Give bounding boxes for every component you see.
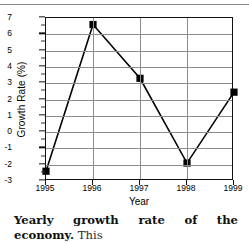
y-axis-minor-tick-mark bbox=[41, 74, 45, 75]
gridline-vertical bbox=[187, 18, 188, 179]
y-axis-tick-label: 6 bbox=[0, 29, 12, 38]
gridline-horizontal bbox=[46, 67, 232, 68]
x-axis-label: Year bbox=[45, 196, 233, 207]
gridline-horizontal bbox=[46, 132, 232, 133]
y-axis-tick-label: 3 bbox=[0, 78, 12, 87]
y-axis-tick-label: -2 bbox=[0, 159, 12, 168]
y-axis-tick-mark bbox=[39, 49, 45, 50]
data-point-marker bbox=[230, 89, 237, 96]
y-axis-tick-label: 7 bbox=[0, 13, 12, 22]
gridline-horizontal bbox=[46, 148, 232, 149]
y-axis-tick-label: 1 bbox=[0, 111, 12, 120]
y-axis-label: Growth Rate (%) bbox=[16, 30, 27, 170]
x-axis-tick-mark bbox=[92, 180, 93, 185]
y-axis-tick-mark bbox=[39, 65, 45, 66]
gridline-horizontal bbox=[46, 100, 232, 101]
gridline-horizontal bbox=[46, 34, 232, 35]
y-axis-tick-mark bbox=[39, 130, 45, 131]
y-axis-tick-label: -3 bbox=[0, 176, 12, 185]
y-axis-minor-tick-mark bbox=[41, 25, 45, 26]
line-chart: Growth Rate (%) -3-2-101234567 199519961… bbox=[0, 8, 249, 213]
x-axis-tick-mark bbox=[186, 180, 187, 185]
y-axis-tick-mark bbox=[39, 33, 45, 34]
y-axis-tick-label: -1 bbox=[0, 143, 12, 152]
y-axis-minor-tick-mark bbox=[41, 90, 45, 91]
y-axis-minor-tick-mark bbox=[41, 41, 45, 42]
gridline-vertical bbox=[140, 18, 141, 179]
x-axis-tick-mark bbox=[45, 180, 46, 185]
x-axis-tick-mark bbox=[233, 180, 234, 185]
gridline-horizontal bbox=[46, 51, 232, 52]
y-axis-minor-tick-mark bbox=[41, 155, 45, 156]
y-axis-minor-tick-mark bbox=[41, 171, 45, 172]
x-axis-tick-mark bbox=[139, 180, 140, 185]
y-axis-minor-tick-mark bbox=[41, 139, 45, 140]
figure-caption: Yearly growth rate of the economy. This bbox=[14, 213, 238, 243]
y-axis-tick-mark bbox=[39, 163, 45, 164]
gridline-vertical bbox=[93, 18, 94, 179]
y-axis-minor-tick-mark bbox=[41, 122, 45, 123]
gridline-horizontal bbox=[46, 83, 232, 84]
y-axis-minor-tick-mark bbox=[41, 106, 45, 107]
y-axis-tick-mark bbox=[39, 82, 45, 83]
plot-area bbox=[45, 17, 233, 180]
y-axis-tick-label: 2 bbox=[0, 94, 12, 103]
gridline-horizontal bbox=[46, 165, 232, 166]
y-axis-tick-label: 4 bbox=[0, 62, 12, 71]
caption-tail: This bbox=[78, 228, 103, 242]
y-axis-tick-label: 5 bbox=[0, 45, 12, 54]
y-axis-tick-mark bbox=[39, 147, 45, 148]
gridline-horizontal bbox=[46, 116, 232, 117]
y-axis-tick-mark bbox=[39, 114, 45, 115]
page-top-rule bbox=[0, 4, 249, 5]
y-axis-tick-mark bbox=[39, 16, 45, 17]
caption-lead: Yearly growth rate of the economy. bbox=[14, 213, 238, 242]
y-axis-tick-mark bbox=[39, 98, 45, 99]
y-axis-minor-tick-mark bbox=[41, 57, 45, 58]
y-axis-tick-label: 0 bbox=[0, 127, 12, 136]
